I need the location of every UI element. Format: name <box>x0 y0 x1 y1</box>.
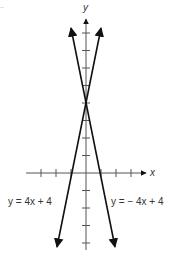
y-axis: y <box>82 2 90 250</box>
line2-label: y = − 4x + 4 <box>111 196 164 207</box>
x-axis-label: x <box>149 167 156 178</box>
line-y-equals-neg-4x-plus-4 <box>71 28 115 247</box>
line1-label: y = 4x + 4 <box>8 196 52 207</box>
line-y-equals-4x-plus-4 <box>57 28 101 247</box>
x-axis: x <box>26 167 156 178</box>
y-axis-label: y <box>82 2 89 13</box>
line-graph: x y y = 4x + 4 y = − 4x + 4 <box>0 0 177 257</box>
